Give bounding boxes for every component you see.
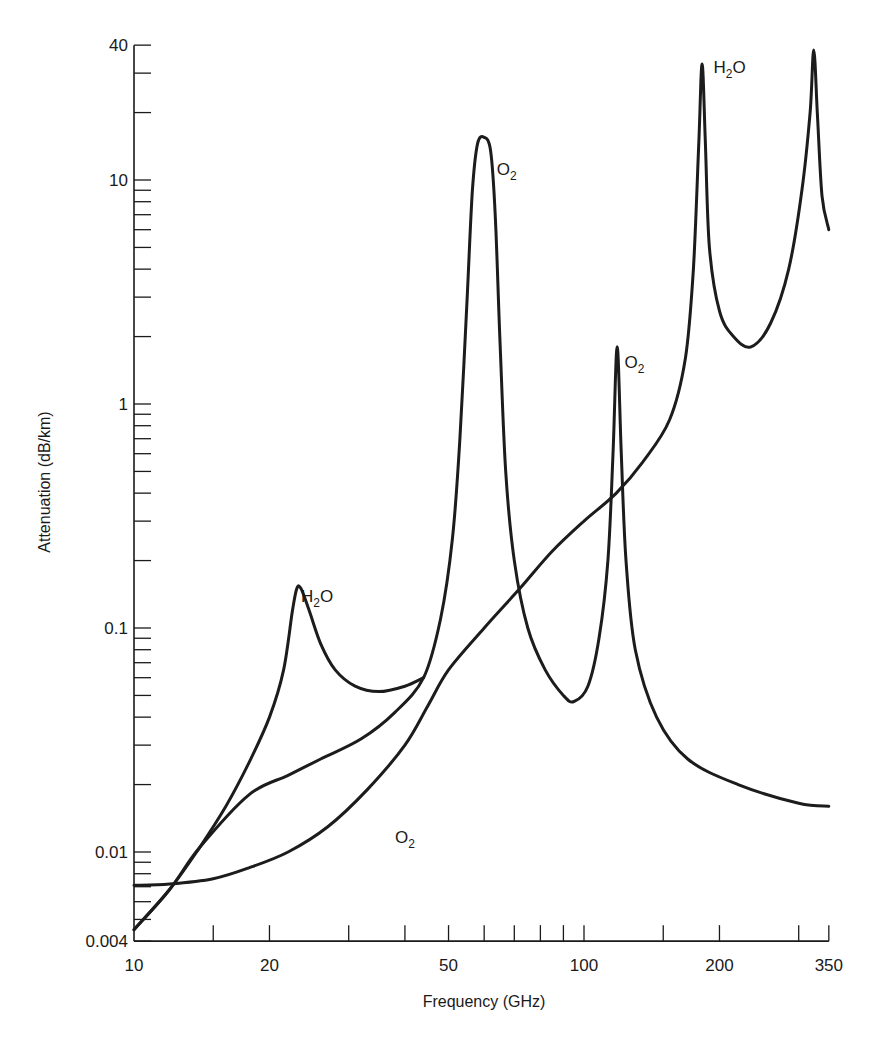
y-tick-label: 0.004 <box>85 932 128 951</box>
curve-label: H2O <box>714 58 746 81</box>
x-axis: 102050100200350 <box>125 925 843 975</box>
y-axis-title: Attenuation (dB/km) <box>36 411 53 552</box>
attenuation-chart: 0.0040.010.111040 102050100200350 H2OO2O… <box>0 0 874 1044</box>
x-tick-label: 350 <box>815 956 843 975</box>
x-tick-label: 50 <box>439 956 458 975</box>
curve-labels: H2OO2O2O2H2O <box>301 58 746 851</box>
x-tick-label: 10 <box>125 956 144 975</box>
curve-label: O2 <box>497 160 517 183</box>
curve-1 <box>134 137 829 930</box>
x-tick-label: 100 <box>570 956 598 975</box>
curve-label: O2 <box>624 353 644 376</box>
y-tick-label: 1 <box>119 395 128 414</box>
curves <box>134 50 829 930</box>
y-tick-label: 10 <box>109 171 128 190</box>
y-axis: 0.0040.010.111040 <box>85 36 151 951</box>
y-tick-label: 40 <box>109 36 128 55</box>
curve-label: O2 <box>395 828 415 851</box>
curve-2 <box>134 50 829 885</box>
curve-label: H2O <box>301 587 333 610</box>
x-axis-title: Frequency (GHz) <box>423 993 546 1010</box>
y-tick-label: 0.1 <box>104 619 128 638</box>
x-tick-label: 20 <box>260 956 279 975</box>
y-tick-label: 0.01 <box>95 843 128 862</box>
x-tick-label: 200 <box>705 956 733 975</box>
